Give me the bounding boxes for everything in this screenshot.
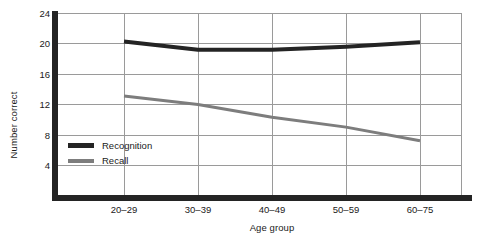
x-tick-label: 60–75: [385, 204, 455, 215]
legend-label: Recall: [102, 155, 128, 166]
recognition-line-swatch-icon: [68, 143, 94, 148]
x-tick-label: 40–49: [237, 204, 307, 215]
x-axis-spine: [52, 195, 472, 201]
legend-item-recognition: Recognition: [68, 138, 188, 153]
x-tick-label: 20–29: [89, 204, 159, 215]
recall-series-line: [124, 96, 420, 141]
x-tick-label: 50–59: [311, 204, 381, 215]
chart-legend: Recognition Recall: [68, 138, 188, 168]
legend-item-recall: Recall: [68, 153, 188, 168]
legend-label: Recognition: [102, 140, 152, 151]
line-chart: Number correct 24 20 16 12 8 4 20–29 30–…: [0, 0, 490, 250]
y-axis-spine: [52, 11, 58, 201]
recognition-series-line: [124, 42, 420, 50]
recall-line-swatch-icon: [68, 159, 94, 163]
x-axis-title: Age group: [124, 222, 420, 233]
x-tick-label: 30–39: [163, 204, 233, 215]
